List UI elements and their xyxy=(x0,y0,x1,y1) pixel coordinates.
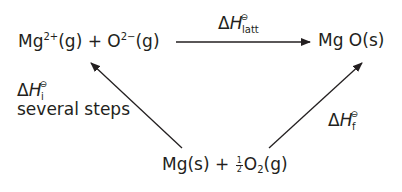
latt-subscript: latt xyxy=(242,24,259,35)
gas-plus-o: (g) + O xyxy=(58,31,121,51)
ionisation-enthalpy-label: ΔH⊖i xyxy=(17,82,44,99)
half-fraction: 12 xyxy=(236,157,243,174)
oxygen-symbol: O xyxy=(244,154,257,174)
o-charge: 2− xyxy=(121,31,136,42)
mg-solid-plus: Mg(s) + xyxy=(162,154,235,174)
several-steps-note: several steps xyxy=(17,101,130,118)
mg-charge: 2+ xyxy=(43,31,58,42)
product-node: Mg O(s) xyxy=(318,32,384,49)
mg-symbol: Mg xyxy=(18,31,43,51)
elements-node: Mg(s) + 12O2(g) xyxy=(162,156,288,175)
formation-enthalpy-label: ΔH⊖f xyxy=(328,112,356,129)
standard-state-icon: ⊖ xyxy=(350,109,358,119)
standard-state-icon: ⊖ xyxy=(39,79,47,89)
delta-symbol: Δ xyxy=(218,13,230,33)
delta-symbol: Δ xyxy=(328,110,340,130)
f-subscript: f xyxy=(352,121,356,132)
standard-state-icon: ⊖ xyxy=(240,12,248,22)
gas-state: (g) xyxy=(135,31,159,51)
gaseous-ions-node: Mg2+(g) + O2−(g) xyxy=(18,32,160,50)
delta-symbol: Δ xyxy=(17,80,29,100)
lattice-enthalpy-label: ΔH⊖latt xyxy=(218,15,259,32)
formation-arrow xyxy=(269,63,362,148)
gas-state: (g) xyxy=(264,154,288,174)
frac-den: 2 xyxy=(236,166,243,174)
